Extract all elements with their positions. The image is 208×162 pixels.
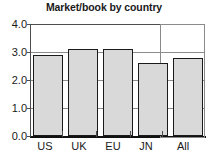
bar-eu[interactable] — [103, 49, 133, 136]
y-tick-mark-4 — [27, 24, 31, 25]
x-tick-label-eu: EU — [96, 140, 130, 153]
bar-us[interactable] — [33, 55, 63, 136]
x-tick-label-jn: JN — [129, 140, 163, 153]
y-tick-mark-3 — [27, 52, 31, 53]
y-tick-mark-0 — [27, 136, 31, 137]
y-tick-label-0: 0.0 — [0, 131, 27, 142]
y-tick-label-2: 2.0 — [0, 75, 27, 86]
x-tick-label-all: All — [163, 140, 203, 153]
bar-all[interactable] — [173, 58, 203, 136]
x-tick-mark-2 — [130, 131, 131, 137]
y-tick-label-4: 4.0 — [0, 19, 27, 30]
bar-jn[interactable] — [138, 63, 168, 136]
x-tick-mark-3 — [162, 131, 163, 137]
chart-container: Market/book by country 4.0 3.0 2.0 1.0 0… — [0, 0, 208, 162]
y-tick-label-3: 3.0 — [0, 47, 27, 58]
x-tick-mark-0 — [62, 131, 63, 137]
y-tick-mark-2 — [27, 80, 31, 81]
x-tick-label-uk: UK — [62, 140, 96, 153]
x-tick-label-us: US — [28, 140, 62, 153]
chart-title: Market/book by country — [0, 1, 208, 13]
bar-uk[interactable] — [68, 49, 98, 136]
y-tick-mark-1 — [27, 108, 31, 109]
x-tick-mark-1 — [96, 131, 97, 137]
y-tick-label-1: 1.0 — [0, 103, 27, 114]
